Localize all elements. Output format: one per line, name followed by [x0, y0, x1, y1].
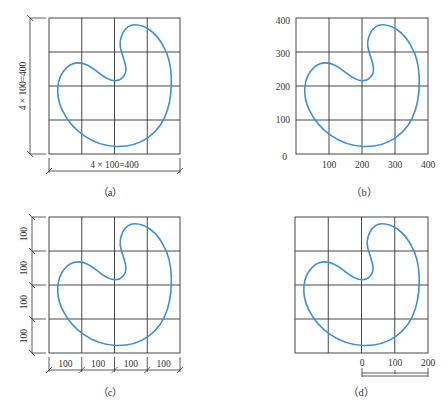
x-label-300: 300 — [388, 160, 403, 170]
panel-b-caption: （b） — [351, 187, 376, 198]
v-seg-2: 100 — [19, 261, 29, 276]
scale-label-0: 0 — [360, 358, 365, 368]
h-seg-2: 100 — [91, 359, 106, 369]
x-label-200: 200 — [355, 160, 370, 170]
scale-label-100: 100 — [388, 358, 403, 368]
panel-a-vertical-label: 4 × 100=400 — [18, 61, 28, 110]
panel-c-vertical-dimension — [29, 214, 46, 356]
scale-label-200: 200 — [421, 358, 436, 368]
h-seg-1: 100 — [58, 359, 73, 369]
y-label-200: 200 — [276, 82, 291, 92]
panel-a-grid — [49, 18, 180, 154]
panel-a-horizontal-label: 4 × 100=400 — [90, 160, 139, 170]
panel-d: 0 100 200 （d） — [295, 217, 435, 398]
scale-bar — [362, 368, 428, 377]
panel-c: 100 100 100 100 100 100 100 100 （c） — [19, 214, 183, 398]
panel-a: 4 × 100=400 4 × 100=400 （a） — [18, 15, 183, 198]
panel-c-caption: （c） — [98, 387, 123, 398]
h-seg-3: 100 — [124, 359, 139, 369]
panel-d-grid — [295, 217, 428, 353]
panel-b-grid — [296, 18, 428, 154]
v-seg-1: 100 — [19, 227, 29, 242]
x-label-400: 400 — [421, 160, 436, 170]
y-label-400: 400 — [276, 16, 291, 26]
origin-label: 0 — [282, 152, 287, 162]
v-seg-4: 100 — [19, 329, 29, 344]
y-label-300: 300 — [276, 49, 291, 59]
panel-d-caption: （d） — [348, 387, 373, 398]
figure-canvas: 4 × 100=400 4 × 100=400 （a） 400 300 200 … — [0, 0, 448, 414]
panel-c-grid — [49, 217, 180, 353]
panel-a-vertical-dimension — [27, 15, 46, 157]
y-label-100: 100 — [276, 115, 291, 125]
panel-a-caption: （a） — [98, 187, 123, 198]
v-seg-3: 100 — [19, 295, 29, 310]
h-seg-4: 100 — [156, 359, 171, 369]
panel-b: 400 300 200 100 0 100 200 300 400 （b） — [276, 16, 436, 198]
x-label-100: 100 — [322, 160, 337, 170]
